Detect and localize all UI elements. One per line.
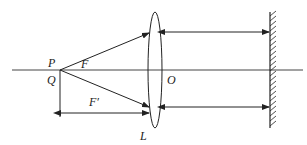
label-f: F <box>80 57 89 71</box>
label-f-prime: F′ <box>88 95 99 109</box>
label-o: O <box>167 73 176 87</box>
ray-upper <box>60 33 149 70</box>
label-p: P <box>47 56 56 70</box>
optics-diagram: P Q F F′ O L <box>0 0 307 145</box>
ray-lower <box>60 70 149 107</box>
label-l: L <box>139 129 147 143</box>
label-q: Q <box>47 73 56 87</box>
